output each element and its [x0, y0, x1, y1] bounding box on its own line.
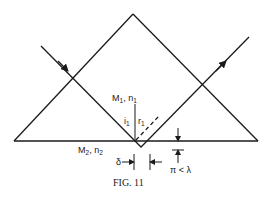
prism-diagram: M1, n1 i1 r1 M2, n2 δ π < λ FIG. 11 [0, 0, 267, 200]
reflected-ray [147, 37, 249, 141]
penetration-label: π < λ [170, 165, 191, 175]
evanescent-penetration-path [135, 141, 147, 147]
prism-left-face [14, 14, 133, 141]
figure-caption: FIG. 11 [113, 177, 144, 188]
reflection-angle-label: r1 [138, 116, 145, 127]
prism-right-face [133, 14, 258, 141]
shift-label: δ [116, 157, 121, 167]
reflected-arrow-icon [216, 63, 224, 71]
incidence-angle-label: i1 [124, 116, 130, 127]
medium2-label: M2, n2 [78, 145, 103, 156]
medium1-label: M1, n1 [112, 93, 137, 104]
incident-ray [41, 46, 135, 141]
